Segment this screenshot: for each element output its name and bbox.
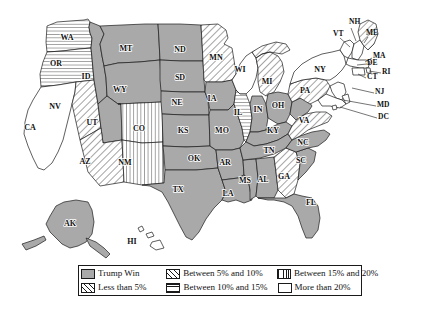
state-label-MI: MI [262,77,273,86]
state-label-KY: KY [267,126,279,135]
state-label-VA: VA [299,116,310,125]
state-label-NV: NV [49,102,61,111]
state-label-LA: LA [222,189,233,198]
state-label-AK: AK [64,219,77,228]
state-label-UT: UT [86,118,98,127]
legend-label-5-to-10: Between 5% and 10% [183,269,263,278]
legend-item-10-to-15[interactable]: Between 10% and 15% [164,281,275,295]
legend-label-15-to-20: Between 15% and 20% [294,269,378,278]
state-AK-aleutians[interactable] [22,236,46,250]
legend-row-1: Trump Win Between 5% and 10% Between 15%… [79,267,361,281]
us-choropleth-map: WAORCANVIDMTWYUTAZCONMNDSDNEKSOKTXMNIAMO… [0,0,435,309]
state-label-CT: CT [367,72,377,81]
legend-row-2: Less than 5% Between 10% and 15% More th… [79,281,361,295]
state-label-NE: NE [171,98,182,107]
legend-item-5-to-10[interactable]: Between 5% and 10% [164,267,275,281]
leader-line-NJ [352,88,374,93]
map-svg: WAORCANVIDMTWYUTAZCONMNDSDNEKSOKTXMNIAMO… [0,0,435,309]
state-label-IL: IL [234,108,242,117]
state-label-HI: HI [127,237,136,246]
state-label-WY: WY [113,85,127,94]
state-label-IN: IN [254,105,263,114]
state-label-AZ: AZ [79,157,90,166]
legend-item-more-than-20[interactable]: More than 20% [276,281,361,295]
state-label-ND: ND [174,45,186,54]
state-label-SC: SC [296,156,306,165]
state-label-WA: WA [61,33,74,42]
state-label-NM: NM [118,158,132,167]
state-label-ME: ME [366,28,378,37]
state-label-KS: KS [178,126,189,135]
state-label-MN: MN [209,53,223,62]
state-NE[interactable] [161,91,209,115]
state-label-OK: OK [188,154,201,163]
legend-swatch-10-to-15 [166,283,180,293]
state-label-RI: RI [382,67,390,76]
legend-swatch-less-than-5 [81,283,95,293]
state-label-CO: CO [133,124,145,133]
state-label-AR: AR [219,158,231,167]
state-label-NY: NY [314,65,326,74]
legend-item-trump-win[interactable]: Trump Win [79,267,164,281]
state-label-VT: VT [333,29,343,38]
state-label-TX: TX [172,185,183,194]
state-IN[interactable] [250,96,268,132]
legend-swatch-more-than-20 [278,283,292,293]
leader-line-DC [340,107,377,118]
state-label-IA: IA [208,94,217,103]
state-label-MS: MS [239,176,252,185]
leader-line-NH [351,28,356,41]
state-ND[interactable] [158,24,203,61]
state-label-PA: PA [300,86,310,95]
state-CO[interactable] [118,102,163,143]
legend-swatch-trump-win [81,269,95,279]
state-label-WI: WI [234,65,245,74]
state-label-GA: GA [278,172,290,181]
state-label-OR: OR [50,59,62,68]
legend-label-trump-win: Trump Win [98,269,139,278]
state-label-ID: ID [82,72,91,81]
legend-label-less-than-5: Less than 5% [98,283,147,292]
legend-item-less-than-5[interactable]: Less than 5% [79,281,164,295]
state-HI[interactable] [138,226,164,250]
state-WY[interactable] [104,60,162,104]
legend-swatch-5-to-10 [166,269,180,279]
legend-label-10-to-15: Between 10% and 15% [183,283,267,292]
legend-label-more-than-20: More than 20% [295,283,351,292]
state-label-MT: MT [120,44,134,53]
state-label-CA: CA [24,123,36,132]
map-legend: Trump Win Between 5% and 10% Between 15%… [78,265,362,296]
state-AK-panhandle[interactable] [86,238,110,258]
state-label-DC: DC [378,112,389,121]
state-label-NJ: NJ [375,87,384,96]
state-label-MO: MO [215,126,229,135]
state-label-NC: NC [297,138,309,147]
state-label-OH: OH [272,101,285,110]
state-label-MD: MD [377,100,390,109]
state-label-AL: AL [257,175,268,184]
state-MI[interactable] [252,42,290,96]
state-label-TN: TN [263,146,274,155]
state-label-SD: SD [175,73,185,82]
state-label-DE: DE [367,58,377,67]
state-label-FL: FL [306,198,316,207]
state-label-NH: NH [349,17,360,26]
legend-item-15-to-20[interactable]: Between 15% and 20% [275,267,361,281]
state-DC[interactable] [332,105,337,110]
legend-swatch-15-to-20 [277,269,291,279]
